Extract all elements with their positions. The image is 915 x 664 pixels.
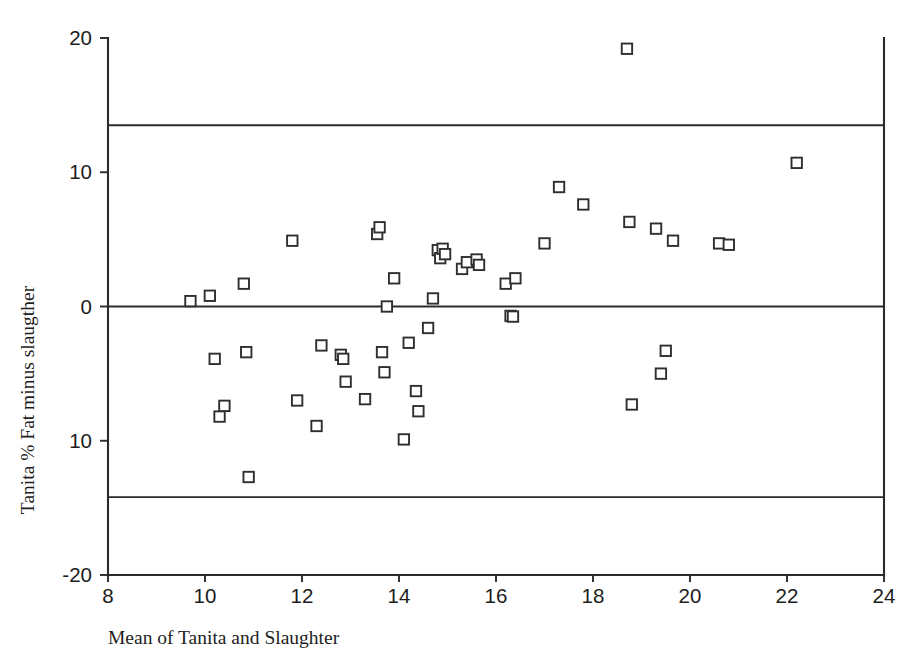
x-tick-label: 10 — [194, 584, 217, 607]
data-point — [404, 338, 414, 348]
x-tick-label: 24 — [873, 584, 896, 607]
data-point — [340, 376, 350, 386]
data-point — [413, 406, 423, 416]
x-tick-label: 22 — [776, 584, 799, 607]
data-point — [243, 472, 253, 482]
y-tick-label: 20 — [69, 26, 92, 49]
data-point — [668, 236, 678, 246]
data-point — [338, 354, 348, 364]
data-point — [316, 340, 326, 350]
x-axis-title: Mean of Tanita and Slaughter — [108, 627, 340, 648]
data-point — [622, 44, 632, 54]
y-tick-label: -20 — [62, 563, 92, 586]
data-point — [374, 222, 384, 232]
y-axis-title: Tanita % Fat minus slaugther — [17, 285, 38, 514]
data-point — [428, 293, 438, 303]
data-point — [792, 158, 802, 168]
data-point — [539, 238, 549, 248]
data-point — [724, 240, 734, 250]
x-tick-label: 14 — [388, 584, 411, 607]
data-point — [399, 434, 409, 444]
data-point — [423, 323, 433, 333]
x-tick-label: 16 — [485, 584, 508, 607]
data-point-markers — [185, 44, 802, 483]
data-point — [239, 278, 249, 288]
data-point — [205, 291, 215, 301]
y-tick-label: 10 — [69, 160, 92, 183]
data-point — [292, 395, 302, 405]
chart-canvas: 81012141618202224 2010010-20 Tanita % Fa… — [0, 0, 915, 664]
data-point — [379, 367, 389, 377]
data-point — [474, 260, 484, 270]
data-point — [508, 311, 518, 321]
x-tick-label: 20 — [679, 584, 702, 607]
bland-altman-plot: 81012141618202224 2010010-20 Tanita % Fa… — [0, 0, 915, 664]
y-tick-label: 0 — [81, 295, 92, 318]
data-point — [510, 273, 520, 283]
data-point — [185, 296, 195, 306]
data-point — [661, 346, 671, 356]
data-point — [214, 411, 224, 421]
data-point — [241, 347, 251, 357]
x-tick-label: 12 — [291, 584, 314, 607]
data-point — [219, 401, 229, 411]
data-point — [624, 217, 634, 227]
x-axis-ticks: 81012141618202224 — [102, 575, 895, 607]
data-point — [440, 249, 450, 259]
data-point — [656, 368, 666, 378]
y-tick-label: 10 — [69, 429, 92, 452]
reference-lines — [108, 125, 884, 497]
data-point — [382, 301, 392, 311]
data-point — [311, 421, 321, 431]
data-point — [210, 354, 220, 364]
data-point — [389, 273, 399, 283]
data-point — [554, 182, 564, 192]
x-tick-label: 8 — [102, 584, 113, 607]
data-point — [578, 199, 588, 209]
y-axis-ticks: 2010010-20 — [62, 26, 108, 586]
x-tick-label: 18 — [582, 584, 605, 607]
data-point — [651, 223, 661, 233]
data-point — [287, 236, 297, 246]
data-point — [360, 394, 370, 404]
data-point — [377, 347, 387, 357]
data-point — [627, 399, 637, 409]
data-point — [411, 386, 421, 396]
